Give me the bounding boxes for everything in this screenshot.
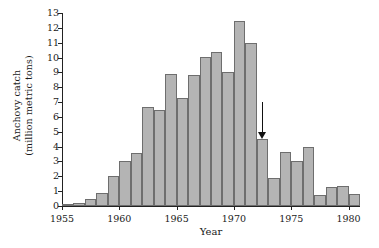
bar [291,161,302,206]
bar [337,186,348,206]
bar [314,195,325,206]
bar [188,75,199,206]
y-tick-label: 0 [53,199,59,212]
arrow-shaft [262,102,263,133]
y-axis-title: Anchovy catch (million metric tons) [0,0,44,210]
y-tick-label: 10 [47,51,59,64]
bar [326,187,337,206]
x-tick-label: 1965 [165,212,189,225]
x-tick-mark [291,206,292,210]
bar [62,204,73,206]
y-tick-label: 13 [47,6,59,19]
x-tick-mark [349,206,350,210]
y-tick-label: 11 [47,36,59,49]
bar [200,57,211,206]
bar [177,98,188,206]
x-tick-label: 1975 [279,212,303,225]
bar [154,110,165,207]
x-tick-label: 1960 [107,212,131,225]
y-tick-label: 12 [47,21,59,34]
y-tick-label: 9 [53,65,59,78]
y-axis-line [62,13,63,207]
bar [165,74,176,206]
bar [349,194,360,206]
x-axis-title: Year [62,226,360,237]
x-axis-line [62,206,360,207]
bar [257,139,268,206]
y-tick-label: 5 [53,125,59,138]
bar [119,161,130,206]
bar [245,43,256,206]
y-axis-title-line-2: (million metric tons) [22,55,34,155]
plot-area: 012345678910111213 195519601965197019751… [62,13,360,207]
y-axis-title-line-1: Anchovy catch [11,55,23,155]
y-tick-label: 3 [53,154,59,167]
x-tick-label: 1980 [336,212,360,225]
y-tick-label: 8 [53,80,59,93]
bar [142,107,153,206]
bar [268,178,279,206]
bar [222,72,233,206]
y-tick-label: 2 [53,169,59,182]
bar [85,199,96,206]
x-tick-mark [119,206,120,210]
bar [108,176,119,206]
bar [234,21,245,206]
y-tick-label: 4 [53,140,59,153]
y-tick-label: 1 [53,184,59,197]
x-tick-mark [62,206,63,210]
anchovy-catch-bar-chart: Anchovy catch (million metric tons) 0123… [0,0,379,248]
y-tick-label: 6 [53,110,59,123]
x-tick-mark [234,206,235,210]
x-tick-label: 1955 [50,212,74,225]
arrow-head [258,132,266,139]
x-tick-label: 1970 [222,212,246,225]
bar [131,153,142,206]
bar [303,147,314,206]
bar [96,193,107,206]
bar [211,52,222,206]
bar [280,152,291,206]
bar [73,203,84,206]
x-tick-mark [177,206,178,210]
annotation-arrow-icon [258,102,267,139]
y-tick-label: 7 [53,95,59,108]
